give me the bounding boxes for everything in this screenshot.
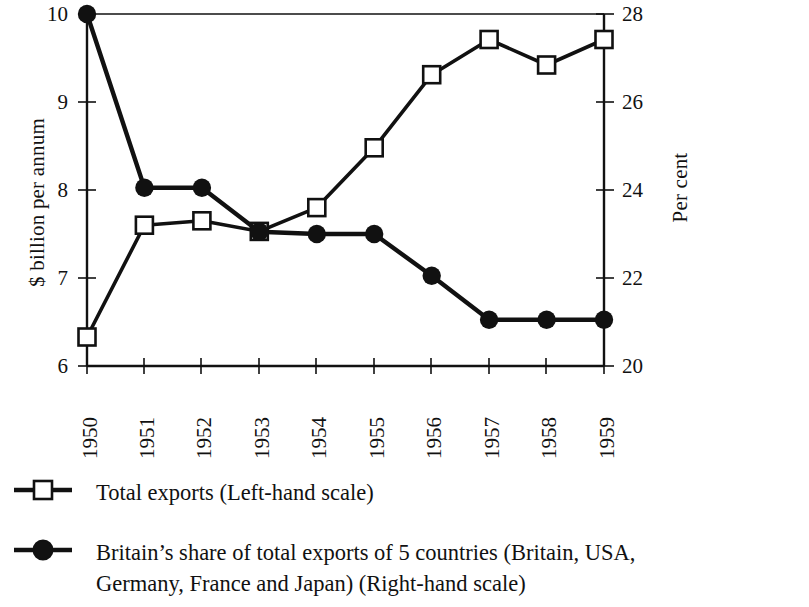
chart-page: 10 9 8 7 6 28 26 24 22 20 1950 1951 1952… <box>0 0 809 607</box>
right-tick-label-24: 24 <box>622 178 668 203</box>
data-point <box>308 225 326 243</box>
data-point <box>365 225 383 243</box>
data-point <box>423 66 440 83</box>
right-tick-label-22: 22 <box>622 266 668 291</box>
data-point <box>193 179 211 197</box>
data-point <box>423 267 441 285</box>
right-tick-label-28: 28 <box>622 2 668 27</box>
x-tick-label-1952: 1952 <box>192 417 217 459</box>
chart-figure: 10 9 8 7 6 28 26 24 22 20 1950 1951 1952… <box>0 0 809 465</box>
y-axis-title-right: Per cent <box>668 108 693 268</box>
data-point <box>135 179 153 197</box>
x-tick-label-1953: 1953 <box>250 417 275 459</box>
x-tick-label-1959: 1959 <box>595 417 620 459</box>
series-britain-share-line <box>87 14 604 320</box>
data-point <box>193 212 210 229</box>
right-tick-label-26: 26 <box>622 90 668 115</box>
data-point <box>538 57 555 74</box>
x-tick-label-1951: 1951 <box>135 417 160 459</box>
x-tick-label-1958: 1958 <box>537 417 562 459</box>
series-britain-share-markers <box>78 5 613 329</box>
open-square-marker <box>12 477 74 503</box>
filled-circle-marker <box>12 537 74 563</box>
data-point <box>79 329 96 346</box>
legend-label-britain-share-line2: Germany, France and Japan) (Right-hand s… <box>96 568 802 599</box>
data-point <box>480 311 498 329</box>
left-tick-label-6: 6 <box>28 354 68 379</box>
x-tick-label-1956: 1956 <box>422 417 447 459</box>
legend-label-britain-share: Britain’s share of total exports of 5 co… <box>96 537 802 599</box>
data-point <box>596 31 613 48</box>
x-tick-label-1950: 1950 <box>78 417 103 459</box>
data-point <box>250 223 268 241</box>
data-point <box>537 311 555 329</box>
x-tick-label-1957: 1957 <box>480 417 505 459</box>
data-point <box>595 311 613 329</box>
legend-label-total-exports: Total exports (Left-hand scale) <box>96 477 802 508</box>
x-tick-label-1954: 1954 <box>307 417 332 459</box>
data-point <box>78 5 96 23</box>
data-point <box>481 31 498 48</box>
legend-label-britain-share-line1: Britain’s share of total exports of 5 co… <box>96 540 635 565</box>
y-axis-title-left: $ billion per annum <box>25 78 50 328</box>
data-point <box>136 217 153 234</box>
x-tick-label-1955: 1955 <box>365 417 390 459</box>
left-tick-label-10: 10 <box>28 2 68 27</box>
data-point <box>366 139 383 156</box>
right-tick-label-20: 20 <box>622 354 668 379</box>
data-point <box>308 199 325 216</box>
chart-legend: Total exports (Left-hand scale) Britain’… <box>0 465 809 607</box>
